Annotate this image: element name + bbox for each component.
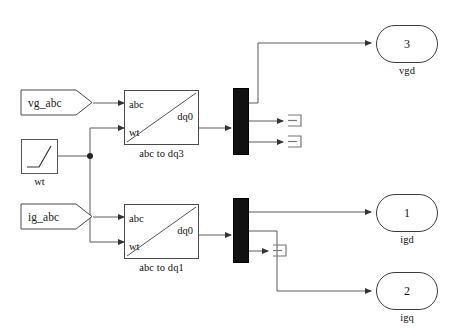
outport-igq-number: 2 (404, 284, 410, 299)
inport-vg-abc[interactable]: vg_abc (20, 89, 93, 116)
wire-igq (249, 231, 371, 291)
terminator-icon (288, 135, 303, 149)
outport-igq[interactable]: 2 (376, 272, 438, 310)
block-abc-to-dq3[interactable]: abc wt dq0 (124, 90, 199, 145)
port-label-dq0: dq0 (177, 111, 193, 122)
port-label-abc: abc (129, 213, 144, 224)
simulink-block-diagram: vg_abc ig_abc wt abc wt dq0 abc to dq3 a… (0, 0, 458, 331)
port-label-wt: wt (129, 241, 140, 252)
terminator-vg-0[interactable] (288, 135, 303, 149)
outport-vgd-caption: vgd (376, 65, 438, 76)
port-label-dq0: dq0 (177, 225, 193, 236)
outport-igq-caption: igq (376, 312, 438, 323)
outport-vgd[interactable]: 3 (376, 25, 438, 63)
terminator-icon (273, 244, 288, 258)
outport-igd-number: 1 (404, 206, 410, 221)
port-label-wt: wt (129, 127, 140, 138)
ramp-block-caption: wt (21, 176, 58, 187)
ramp-block-wt[interactable] (21, 139, 58, 174)
wire-vgd (249, 43, 371, 103)
block-abc-to-dq3-caption: abc to dq3 (114, 148, 209, 159)
ramp-icon (22, 140, 57, 173)
terminator-icon (288, 114, 303, 128)
inport-vg-abc-label: vg_abc (20, 89, 93, 116)
block-abc-to-dq1-caption: abc to dq1 (114, 262, 209, 273)
inport-ig-abc[interactable]: ig_abc (20, 203, 93, 230)
block-abc-to-dq1[interactable]: abc wt dq0 (124, 204, 199, 259)
outport-vgd-number: 3 (404, 37, 410, 52)
outport-igd[interactable]: 1 (376, 194, 438, 232)
inport-ig-abc-label: ig_abc (20, 203, 93, 230)
demux-vg[interactable] (233, 88, 249, 155)
port-label-abc: abc (129, 99, 144, 110)
demux-ig[interactable] (233, 198, 249, 263)
terminator-vg-q[interactable] (288, 114, 303, 128)
outport-igd-caption: igd (376, 234, 438, 245)
wire-junction-to-wt-lower (90, 156, 124, 242)
terminator-ig-0[interactable] (273, 244, 288, 258)
wire-junction-dot (87, 153, 93, 159)
